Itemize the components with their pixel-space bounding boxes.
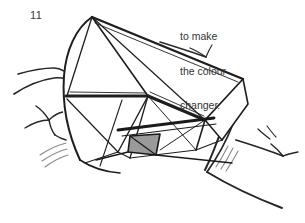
caption-text-block: to make the colour changer. [180,8,226,135]
origami-diagram [0,0,305,223]
left-hand-shade-lines [40,143,68,167]
step-number: 11 [30,9,42,21]
caption-line-1: to make [180,31,226,43]
shaded-colour-face [128,134,160,155]
caption-line-2: the colour [180,66,226,78]
figure-panel: 11 to make the colour changer. [0,0,305,223]
right-hand-shade-lines [216,146,238,171]
caption-line-3: changer. [180,100,226,112]
